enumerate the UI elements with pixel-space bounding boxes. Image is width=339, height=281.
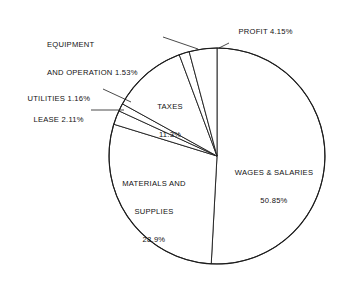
slice-label-profit: PROFIT 4.15% [229, 18, 293, 46]
pie-chart: PROFIT 4.15% EQUIPMENT AND OPERATION 1.5… [0, 0, 339, 281]
slice-label-wages-line2: 50.85% [222, 196, 326, 205]
slice-label-utilities-text: UTILITIES 1.16% [27, 94, 90, 103]
slice-label-materials-line2: SUPPLIES [106, 207, 202, 216]
slice-label-materials-line1: MATERIALS AND [106, 179, 202, 188]
slice-label-equipment-line1: EQUIPMENT [47, 40, 138, 49]
leader-line-profit [219, 43, 229, 48]
slice-label-wages: WAGES & SALARIES 50.85% [222, 150, 326, 224]
slice-label-taxes-line2: 11.3% [142, 130, 198, 139]
slice-label-lease: LEASE 2.11% [24, 106, 84, 134]
slice-label-profit-text: PROFIT 4.15% [238, 27, 292, 36]
slice-label-taxes-line1: TAXES [142, 102, 198, 111]
slice-label-taxes: TAXES 11.3% [142, 84, 198, 158]
slice-label-materials-line3: 28.9% [106, 235, 202, 244]
slice-label-equipment-line2: AND OPERATION 1.53% [47, 68, 138, 77]
slice-label-wages-line1: WAGES & SALARIES [222, 168, 326, 177]
slice-label-lease-text: LEASE 2.11% [33, 115, 83, 124]
slice-label-materials: MATERIALS AND SUPPLIES 28.9% [106, 161, 202, 262]
leader-line-equipment [163, 37, 198, 49]
